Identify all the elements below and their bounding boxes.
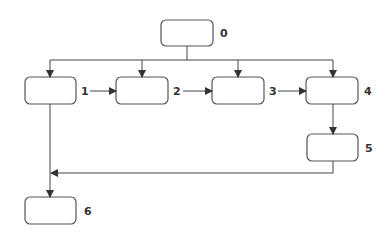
node-0-box [161, 20, 213, 46]
node-2-label: 2 [173, 86, 181, 97]
node-3-label: 3 [269, 86, 277, 97]
node-5-box [307, 134, 358, 161]
node-4-label: 4 [364, 86, 372, 97]
edge-5-6 [51, 161, 333, 173]
node-3-box [212, 77, 264, 104]
node-0-label: 0 [220, 28, 228, 39]
flowchart-canvas [0, 0, 391, 235]
node-1-label: 1 [81, 86, 89, 97]
node-6-label: 6 [84, 206, 92, 217]
node-1-box [25, 77, 76, 104]
node-5-label: 5 [365, 143, 373, 154]
node-2-box [116, 77, 168, 104]
node-6-box [25, 197, 76, 224]
node-4-box [306, 77, 358, 104]
